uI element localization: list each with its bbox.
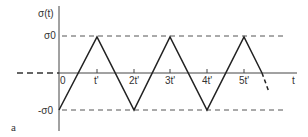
y-axis-label: σ(t): [38, 8, 54, 19]
wave-continuation-dashed: [262, 73, 269, 92]
origin-label: 0: [60, 75, 66, 86]
tick-label-4: 4t': [202, 75, 212, 86]
triangular-wave-diagram: σ(t) σ0 -σ0 0 t' 2t' 3t' 4t' 5t' t a: [0, 0, 308, 137]
panel-label: a: [11, 121, 16, 133]
tick-label-2: 2t': [129, 75, 139, 86]
lower-level-label: -σ0: [38, 105, 54, 116]
tick-label-3: 3t': [165, 75, 175, 86]
upper-level-label: σ0: [44, 30, 56, 41]
tick-label-1: t': [94, 75, 99, 86]
x-ticks: [97, 69, 244, 73]
tick-label-5: 5t': [239, 75, 249, 86]
x-axis-label: t: [292, 75, 295, 86]
